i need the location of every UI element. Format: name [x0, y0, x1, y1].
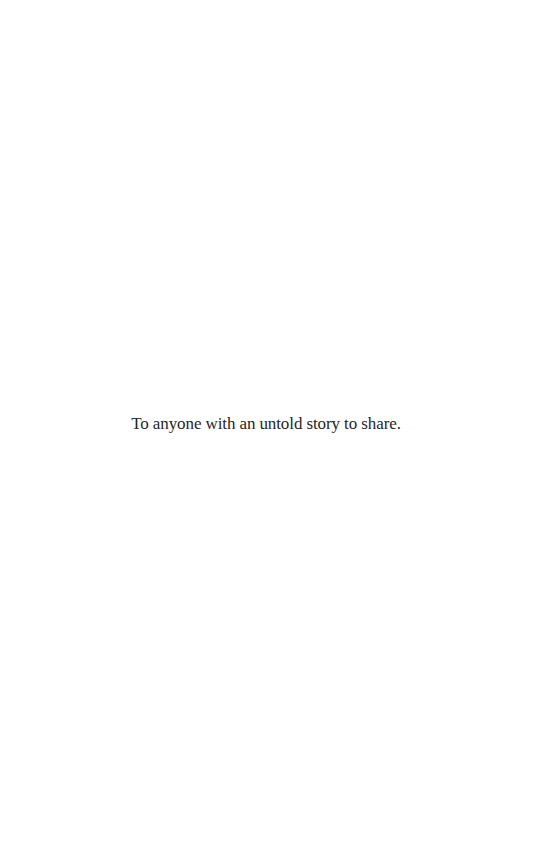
dedication-text: To anyone with an untold story to share. — [0, 413, 532, 435]
dedication-page: To anyone with an untold story to share. — [0, 0, 536, 863]
